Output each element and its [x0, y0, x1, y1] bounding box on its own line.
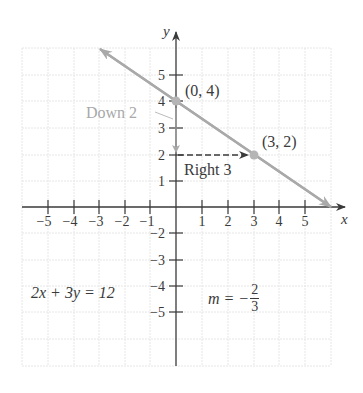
- x-tick-label: 1: [199, 215, 206, 229]
- y-tick-label: 4: [135, 95, 165, 109]
- down-2-leader: [155, 112, 173, 119]
- y-tick-label: 3: [135, 122, 165, 136]
- x-tick-label: −4: [63, 215, 78, 229]
- slope-label: m = − 2 3: [208, 283, 259, 314]
- slope-prefix: m = −: [208, 291, 249, 307]
- point-label-3-2: (3, 2): [262, 134, 297, 150]
- right-3-label: Right 3: [184, 162, 232, 178]
- x-tick-label: −3: [89, 215, 104, 229]
- slope-numerator: 2: [250, 283, 259, 299]
- y-tick-label: −5: [135, 306, 165, 320]
- axes: [22, 32, 345, 366]
- x-tick-label: 4: [276, 215, 283, 229]
- y-tick-label: −2: [135, 227, 165, 241]
- graph-figure: y x −5 −4 −3 −2 −1 1 2 3 4 5 5 4 3 2 1 −…: [0, 0, 363, 393]
- equation-label: 2x + 3y = 12: [31, 285, 115, 301]
- x-tick-label: −5: [37, 215, 52, 229]
- y-tick-label: 1: [135, 175, 165, 189]
- y-tick-label: 2: [135, 149, 165, 163]
- x-axis-label: x: [341, 212, 348, 227]
- x-tick-label: 2: [225, 215, 232, 229]
- x-tick-label: −2: [115, 215, 130, 229]
- y-tick-label: 5: [135, 69, 165, 83]
- slope-denominator: 3: [251, 299, 258, 314]
- down-2-label: Down 2: [86, 105, 137, 121]
- x-tick-label: 3: [251, 215, 258, 229]
- x-tick-label: 5: [302, 215, 309, 229]
- graph-canvas: [0, 0, 363, 393]
- point-3-2: [250, 151, 259, 160]
- y-tick-label: −4: [135, 280, 165, 294]
- slope-fraction: 2 3: [250, 283, 259, 314]
- point-0-4: [172, 97, 181, 106]
- y-tick-label: −3: [135, 254, 165, 268]
- y-axis-label: y: [163, 24, 170, 39]
- point-label-0-4: (0, 4): [185, 83, 220, 99]
